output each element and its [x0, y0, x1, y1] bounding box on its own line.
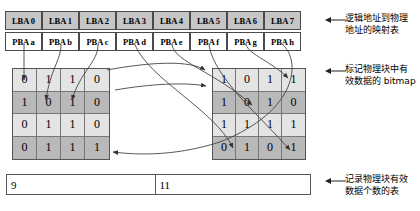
valid-count-cell-0: 9 [7, 175, 156, 194]
bitmap-left-row: 0110 [13, 69, 109, 92]
pba-cell-label: PBA b [49, 37, 72, 47]
lba-cell-label: LBA 5 [197, 16, 220, 26]
bitmap-left-cell-r0c0: 0 [13, 69, 37, 92]
bitmap-right-row: 1111 [213, 114, 305, 137]
lba-cell-7[interactable]: LBA 7 [264, 11, 301, 30]
pba-cell-label: PBA c [87, 37, 109, 47]
lba-cell-4[interactable]: LBA 4 [153, 11, 190, 30]
pba-cell-3[interactable]: PBA d [116, 32, 153, 51]
bitmap-left-cell-r2c2: 1 [61, 114, 85, 137]
bitmap-left-row: 1010 [13, 92, 109, 115]
bitmap-right-cell-r0c1: 0 [236, 69, 259, 92]
bitmap-right-cell-r3c1: 1 [236, 137, 259, 160]
annotation-arrow-bitmap [325, 66, 347, 76]
bitmap-right-cell-r0c3: 1 [282, 69, 305, 92]
bitmap-left-cell-r2c3: 0 [85, 114, 109, 137]
lba-cell-1[interactable]: LBA 1 [42, 11, 79, 30]
bitmap-left-cell-r3c3: 1 [85, 137, 109, 160]
bitmap-left-cell-r2c1: 1 [37, 114, 61, 137]
lba-cell-2[interactable]: LBA 2 [79, 11, 116, 30]
diagram-canvas: LBA 0LBA 1LBA 2LBA 3LBA 4LBA 5LBA 6LBA 7… [0, 0, 420, 211]
pba-cell-4[interactable]: PBA e [153, 32, 190, 51]
bitmap-left-cell-r1c3: 0 [85, 92, 109, 115]
bitmap-right-cell-r3c2: 0 [259, 137, 282, 160]
lba-cell-label: LBA 2 [86, 16, 109, 26]
annotation-count-table: 记录物理块有效 数据个数的表 [345, 173, 417, 197]
pba-cell-label: PBA f [198, 37, 219, 47]
lba-cell-0[interactable]: LBA 0 [5, 11, 42, 30]
bitmap-right-row: 0101 [213, 137, 305, 160]
bitmap-left-cell-r3c1: 1 [37, 137, 61, 160]
arrow-cross-1 [107, 63, 205, 70]
pba-cell-label: PBA e [161, 37, 183, 47]
lba-cell-label: LBA 6 [234, 16, 257, 26]
bitmap-right-cell-r2c3: 1 [282, 114, 305, 137]
bitmap-grid-left: 0110101001100111 [12, 68, 110, 160]
bitmap-left-cell-r3c2: 1 [61, 137, 85, 160]
bitmap-right-cell-r3c3: 1 [282, 137, 305, 160]
bitmap-right-row: 1010 [213, 92, 305, 115]
bitmap-right-cell-r1c3: 0 [282, 92, 305, 115]
bitmap-left-cell-r0c2: 1 [61, 69, 85, 92]
bitmap-right-cell-r1c0: 1 [213, 92, 236, 115]
pba-cell-label: PBA d [123, 37, 146, 47]
arrow-cross-2 [115, 84, 206, 90]
valid-count-table: 911 [6, 174, 311, 195]
bitmap-right-cell-r2c0: 1 [213, 114, 236, 137]
pba-cell-2[interactable]: PBA c [79, 32, 116, 51]
annotation-arrow-map-table [325, 15, 347, 25]
bitmap-right-cell-r1c1: 0 [236, 92, 259, 115]
lba-cell-6[interactable]: LBA 6 [227, 11, 264, 30]
lba-cell-label: LBA 1 [49, 16, 72, 26]
pba-cell-label: PBA g [234, 37, 256, 47]
bitmap-left-row: 0110 [13, 114, 109, 137]
bitmap-left-cell-r1c2: 1 [61, 92, 85, 115]
bitmap-right-cell-r3c0: 0 [213, 137, 236, 160]
pba-cell-0[interactable]: PBA a [5, 32, 42, 51]
bitmap-right-row: 1011 [213, 69, 305, 92]
lba-cell-label: LBA 0 [12, 16, 35, 26]
lba-cell-5[interactable]: LBA 5 [190, 11, 227, 30]
bitmap-right-cell-r0c0: 1 [213, 69, 236, 92]
pba-cell-6[interactable]: PBA g [227, 32, 264, 51]
annotation-map-table: 逻辑地址到物理 地址的映射表 [345, 12, 417, 36]
annotation-bitmap: 标记物理块中有 效数据的 bitmap [345, 63, 420, 87]
logical-address-row: LBA 0LBA 1LBA 2LBA 3LBA 4LBA 5LBA 6LBA 7 [5, 11, 301, 30]
pba-cell-5[interactable]: PBA f [190, 32, 227, 51]
bitmap-left-cell-r0c3: 0 [85, 69, 109, 92]
lba-cell-label: LBA 3 [123, 16, 146, 26]
bitmap-left-cell-r1c1: 0 [37, 92, 61, 115]
lba-cell-label: LBA 4 [160, 16, 183, 26]
bitmap-left-cell-r3c0: 0 [13, 137, 37, 160]
annotation-arrow-count-table [325, 176, 347, 186]
physical-address-row: PBA aPBA bPBA cPBA dPBA ePBA fPBA gPBA h [5, 32, 301, 51]
lba-cell-label: LBA 7 [271, 16, 294, 26]
bitmap-right-cell-r1c2: 1 [259, 92, 282, 115]
bitmap-right-cell-r2c1: 1 [236, 114, 259, 137]
bitmap-left-cell-r0c1: 1 [37, 69, 61, 92]
valid-count-cell-1: 11 [156, 175, 310, 194]
bitmap-left-cell-r2c0: 0 [13, 114, 37, 137]
bitmap-right-cell-r0c2: 1 [259, 69, 282, 92]
pba-cell-1[interactable]: PBA b [42, 32, 79, 51]
bitmap-left-row: 0111 [13, 137, 109, 160]
lba-cell-3[interactable]: LBA 3 [116, 11, 153, 30]
pba-cell-label: PBA a [12, 37, 34, 47]
bitmap-grid-right: 1011101011110101 [212, 68, 306, 160]
pba-cell-7[interactable]: PBA h [264, 32, 301, 51]
bitmap-right-cell-r2c2: 1 [259, 114, 282, 137]
pba-cell-label: PBA h [271, 37, 294, 47]
bitmap-left-cell-r1c0: 1 [13, 92, 37, 115]
